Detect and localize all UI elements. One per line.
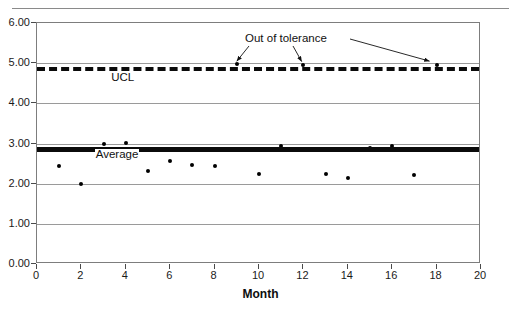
y-axis-tick-label: 4.00 <box>0 97 30 108</box>
gridline-horizontal <box>37 103 479 104</box>
gridline-horizontal <box>37 63 479 64</box>
x-axis-tick-label: 20 <box>465 270 495 281</box>
x-axis-tick-label: 18 <box>421 270 451 281</box>
x-axis-tick-mark <box>80 264 81 269</box>
average-inline-label: Average <box>95 149 140 161</box>
plot-area: UCL Average <box>36 22 480 263</box>
data-point <box>412 173 416 177</box>
y-axis-tick-mark <box>31 263 36 264</box>
y-axis-tick-label: 2.00 <box>0 178 30 189</box>
x-axis-tick-label: 0 <box>21 270 51 281</box>
x-axis-tick-mark <box>436 264 437 269</box>
x-axis-tick-label: 2 <box>65 270 95 281</box>
x-axis-tick-mark <box>391 264 392 269</box>
x-axis-tick-label: 4 <box>110 270 140 281</box>
x-axis-tick-mark <box>480 264 481 269</box>
gridline-horizontal <box>37 184 479 185</box>
y-axis-tick-label: 0.00 <box>0 258 30 269</box>
x-axis-tick-label: 8 <box>199 270 229 281</box>
x-axis-tick-mark <box>347 264 348 269</box>
x-axis-tick-mark <box>258 264 259 269</box>
y-axis-tick-label: 3.00 <box>0 138 30 149</box>
x-axis-tick-label: 10 <box>243 270 273 281</box>
data-point <box>257 172 261 176</box>
data-point <box>190 163 194 167</box>
data-point <box>235 62 239 66</box>
data-point <box>124 141 128 145</box>
control-chart-figure: 0.001.002.003.004.005.006.00 UCL Average… <box>0 0 521 310</box>
x-axis-tick-mark <box>302 264 303 269</box>
x-axis-tick-label: 12 <box>287 270 317 281</box>
x-axis-tick-mark <box>125 264 126 269</box>
top-divider-rule <box>12 8 509 9</box>
y-axis-tick-label: 1.00 <box>0 218 30 229</box>
ucl-control-line <box>37 67 479 71</box>
data-point <box>57 164 61 168</box>
data-point <box>346 176 350 180</box>
data-point <box>168 159 172 163</box>
x-axis-title: Month <box>0 288 521 300</box>
data-point <box>213 164 217 168</box>
data-point <box>301 63 305 67</box>
data-point <box>146 169 150 173</box>
x-axis-tick-mark <box>214 264 215 269</box>
ucl-inline-label: UCL <box>110 72 135 84</box>
data-point <box>79 182 83 186</box>
x-axis-tick-label: 14 <box>332 270 362 281</box>
y-axis-tick-label: 6.00 <box>0 17 30 28</box>
data-point <box>102 142 106 146</box>
data-point <box>324 172 328 176</box>
x-axis-tick-mark <box>169 264 170 269</box>
gridline-horizontal <box>37 224 479 225</box>
x-axis-tick-label: 16 <box>376 270 406 281</box>
y-axis-tick-label: 5.00 <box>0 57 30 68</box>
x-axis-tick-mark <box>36 264 37 269</box>
x-axis-tick-label: 6 <box>154 270 184 281</box>
out-of-tolerance-annotation-label: Out of tolerance <box>245 33 327 45</box>
